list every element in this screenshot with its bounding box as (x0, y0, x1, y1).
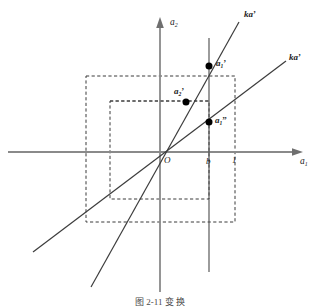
point-label-a1-prime-mark: ’ (223, 58, 226, 68)
point-label-a1-dprime: a1” (215, 116, 227, 126)
point-label-a1-prime: a1’ (216, 59, 226, 69)
x-axis-arrow (292, 148, 303, 156)
point-label-a1-dprime-mark: ” (222, 115, 227, 125)
steep-ray-label-prime: ’ (253, 9, 256, 19)
point-a1-prime (206, 63, 213, 70)
steep-ray-label-base: ka (244, 9, 253, 19)
point-a1-dprime (206, 119, 213, 126)
tick-label-b: b (206, 157, 211, 166)
figure-canvas: a2 a1 O b 1 ka’ ka’ a1’ a2’ a1” 图 2-11 变… (0, 0, 320, 307)
steep-ray-label: ka’ (244, 10, 256, 19)
diagram-svg (0, 0, 320, 307)
x-axis-label: a1 (300, 157, 308, 168)
tick-label-1: 1 (232, 156, 237, 165)
shallow-ray-label-prime: ’ (298, 52, 301, 62)
y-axis-label-sub: 2 (175, 22, 178, 28)
point-a2-prime (183, 99, 190, 106)
origin-label: O (164, 156, 171, 165)
point-label-a2-prime-mark: ’ (181, 86, 184, 96)
figure-caption: 图 2-11 变 换 (0, 295, 320, 307)
x-axis-label-sub: 1 (305, 161, 308, 167)
y-axis-label: a2 (170, 18, 178, 29)
point-label-a2-prime: a2’ (174, 87, 184, 97)
shallow-ray-label-base: ka (289, 52, 298, 62)
shallow-ray-label: ka’ (289, 53, 301, 62)
y-axis-arrow (156, 17, 164, 28)
